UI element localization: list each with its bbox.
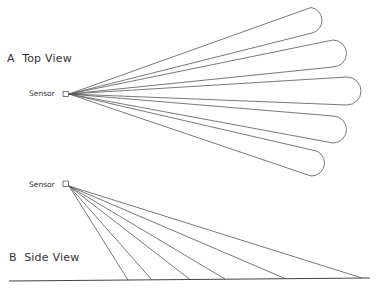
lobe-5 <box>69 94 325 176</box>
ground-line <box>9 278 370 281</box>
lobe-3 <box>69 77 361 105</box>
side-sensor-icon <box>63 181 69 187</box>
sensor-coverage-diagram <box>0 0 376 291</box>
lobe-4 <box>69 94 347 143</box>
side-beams <box>69 186 362 280</box>
top-sensor-icon <box>63 92 69 97</box>
